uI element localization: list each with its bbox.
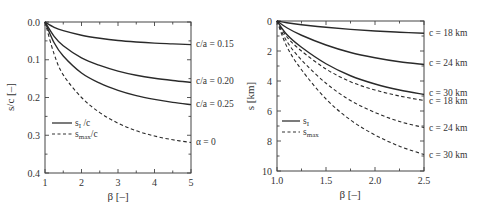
left-legend: sI /c smax/c [52, 118, 98, 141]
x-tick-label: 2.0 [369, 175, 382, 186]
legend-label-smax: smax/c [75, 129, 98, 141]
x-tick-label: 1.0 [271, 175, 284, 186]
y-tick-label: 0 [267, 16, 272, 27]
left-plot-frame [45, 22, 191, 173]
right-chart: 0 2 4 6 8 10 1.0 1.5 2.0 2.5 β [–] s [km… [244, 16, 468, 201]
left-y-tick-labels: 0.0 0.1 0.2 0.3 0.4 [28, 17, 41, 179]
left-x-axis-title: β [–] [107, 190, 128, 202]
y-tick-label: 0.0 [28, 17, 41, 28]
x-tick-label: 2 [79, 177, 84, 188]
x-tick-label: 2.5 [418, 175, 431, 186]
left-x-tick-labels: 1 2 3 4 5 [43, 177, 194, 188]
left-ticks [45, 22, 191, 173]
curve-label-si-18: c = 18 km [429, 28, 468, 38]
x-tick-label: 4 [152, 177, 157, 188]
curve-s-max-c-30-km [277, 21, 424, 155]
left-curves [45, 22, 191, 142]
y-tick-label: 2 [267, 46, 272, 57]
y-tick-label: 6 [267, 106, 272, 117]
left-chart: 0.0 0.1 0.2 0.3 0.4 1 2 3 4 5 β [–] s/c … [4, 17, 234, 203]
y-tick-label: 0.2 [28, 92, 41, 103]
left-curve-labels: c/a = 0.15 c/a = 0.20 c/a = 0.25 α = 0 [196, 39, 234, 147]
curve-label-si-24: c = 24 km [429, 58, 468, 68]
figure: 0.0 0.1 0.2 0.3 0.4 1 2 3 4 5 β [–] s/c … [0, 0, 477, 211]
right-curve-labels: c = 18 km c = 24 km c = 30 km c = 18 km … [429, 28, 468, 160]
x-tick-label: 3 [116, 177, 121, 188]
legend-label-smax: smax [303, 127, 319, 139]
right-x-axis-title: β [–] [339, 188, 360, 200]
curve-c-a-0-25 [45, 22, 191, 105]
curve-label-smax-24: c = 24 km [429, 123, 468, 133]
y-tick-label: 0.3 [28, 130, 41, 141]
x-tick-label: 1 [43, 177, 48, 188]
x-tick-label: 5 [189, 177, 194, 188]
y-tick-label: 8 [267, 136, 272, 147]
curve-label-ca-020: c/a = 0.20 [196, 76, 234, 86]
y-tick-label: 4 [267, 76, 272, 87]
left-y-axis-title: s/c [–] [4, 83, 16, 111]
right-legend: sI smax [282, 116, 319, 139]
curve-label-ca-025: c/a = 0.25 [196, 99, 234, 109]
curve-s-max-c-24-km [277, 21, 424, 128]
right-x-tick-labels: 1.0 1.5 2.0 2.5 [271, 175, 431, 186]
curve-label-alpha-0: α = 0 [196, 137, 216, 147]
right-y-axis-title: s [km] [244, 82, 256, 110]
curve-label-ca-015: c/a = 0.15 [196, 39, 234, 49]
y-tick-label: 0.1 [28, 54, 41, 65]
curve-label-smax-30: c = 30 km [429, 150, 468, 160]
x-tick-label: 1.5 [320, 175, 333, 186]
right-curves [277, 21, 424, 155]
right-y-tick-labels: 0 2 4 6 8 10 [262, 16, 272, 177]
y-tick-label: 0.4 [28, 168, 41, 179]
curve-label-smax-18: c = 18 km [429, 96, 468, 106]
